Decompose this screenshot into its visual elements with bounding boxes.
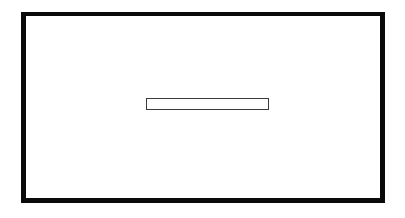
outer-frame-rectangle bbox=[21, 12, 385, 203]
drawing-canvas bbox=[0, 0, 405, 218]
inner-slot-rectangle bbox=[146, 98, 269, 110]
